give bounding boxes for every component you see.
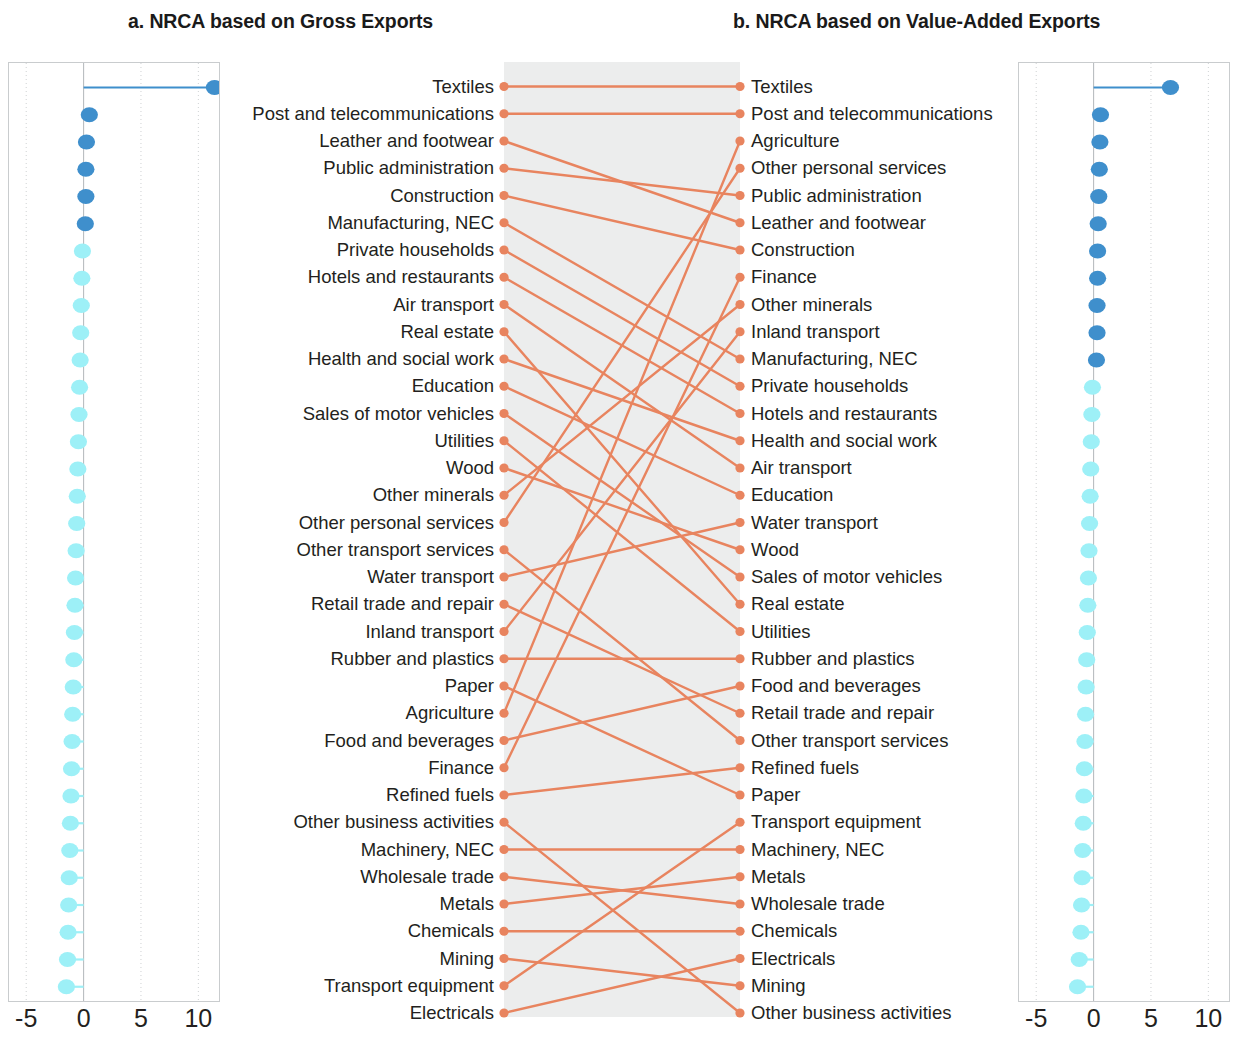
dotplot-svg-b (1019, 63, 1229, 1001)
dot-marker (65, 652, 82, 667)
slope-left-label: Chemicals (408, 922, 494, 941)
dot-marker (77, 162, 94, 177)
dot-marker (62, 788, 79, 803)
dot-marker (1074, 843, 1091, 858)
dot-marker (1082, 489, 1099, 504)
slope-link (504, 414, 740, 578)
x-axis-a-tick-neg5: -5 (15, 1004, 37, 1033)
slope-left-label: Wholesale trade (360, 868, 494, 887)
dot-marker (1082, 461, 1099, 476)
dot-marker (1081, 516, 1098, 531)
slope-left-label: Food and beverages (324, 731, 494, 750)
dot-marker (68, 516, 85, 531)
slope-right-label: Metals (751, 868, 806, 887)
dot-marker (1083, 407, 1100, 422)
x-axis-a-tick-0: 0 (77, 1004, 91, 1033)
dot-marker (78, 134, 95, 149)
slope-right-label: Education (751, 486, 833, 505)
slope-left-label: Refined fuels (386, 786, 494, 805)
dot-marker (1078, 652, 1095, 667)
x-axis-b-tick-0: 0 (1087, 1004, 1101, 1033)
dot-marker (1076, 734, 1093, 749)
dot-marker (65, 679, 82, 694)
slope-left-label: Other minerals (373, 486, 494, 505)
dot-marker (1090, 216, 1107, 231)
dot-marker (66, 598, 83, 613)
dot-marker (60, 897, 77, 912)
dot-marker (1071, 952, 1088, 967)
dotplot-svg-a (9, 63, 219, 1001)
slope-left-label: Air transport (393, 295, 494, 314)
dot-marker (73, 271, 90, 286)
dot-marker (66, 625, 83, 640)
dot-marker (1084, 380, 1101, 395)
slope-right-label: Finance (751, 268, 817, 287)
figure-root: a. NRCA based on Gross Exports b. NRCA b… (0, 0, 1240, 1052)
slope-right-label: Construction (751, 241, 855, 260)
x-axis-b-tick-neg5: -5 (1025, 1004, 1047, 1033)
slope-right-label: Food and beverages (751, 677, 921, 696)
slope-link (504, 332, 740, 632)
dot-marker (1092, 107, 1109, 122)
slope-right-label: Transport equipment (751, 813, 921, 832)
slope-left-label: Leather and footwear (319, 132, 494, 151)
dot-marker (59, 925, 76, 940)
slope-left-label: Textiles (432, 77, 494, 96)
dot-marker (71, 380, 88, 395)
slope-left-label: Inland transport (365, 622, 494, 641)
slope-left-label: Education (412, 377, 494, 396)
dot-marker (64, 707, 81, 722)
slope-right-label: Hotels and restaurants (751, 404, 937, 423)
dot-marker (1079, 625, 1096, 640)
slope-left-label: Hotels and restaurants (308, 268, 494, 287)
slope-link (504, 822, 740, 986)
slope-left-label: Construction (390, 186, 494, 205)
slope-right-label: Other personal services (751, 159, 946, 178)
slope-right-label: Wholesale trade (751, 895, 885, 914)
x-axis-a-tick-10: 10 (184, 1004, 212, 1033)
dot-marker (206, 80, 219, 95)
slope-left-label: Metals (440, 895, 495, 914)
dot-marker (81, 107, 98, 122)
dot-marker (1080, 543, 1097, 558)
slope-left-label: Real estate (400, 323, 494, 342)
dot-marker (1072, 925, 1089, 940)
slope-chart: TextilesPost and telecommunicationsLeath… (236, 62, 1008, 1022)
slope-right-label: Wood (751, 541, 799, 560)
dot-marker (1089, 271, 1106, 286)
dot-marker (1088, 352, 1105, 367)
slope-right-label: Air transport (751, 459, 852, 478)
dot-marker (1083, 434, 1100, 449)
slope-left-label: Rubber and plastics (330, 650, 494, 669)
slope-right-label: Refined fuels (751, 759, 859, 778)
slope-link (504, 550, 740, 741)
slope-link (504, 141, 740, 713)
slope-left-label: Transport equipment (324, 977, 494, 996)
dot-marker (77, 189, 94, 204)
slope-left-label: Other business activities (293, 813, 494, 832)
dot-marker (1069, 979, 1086, 994)
dotplot-panel-value-added-exports (1018, 62, 1230, 1002)
slope-right-label: Private households (751, 377, 908, 396)
slope-right-label: Other business activities (751, 1004, 952, 1023)
dot-marker (70, 407, 87, 422)
slope-link (504, 305, 740, 469)
dot-marker (1078, 679, 1095, 694)
slope-right-label: Chemicals (751, 922, 837, 941)
slope-link (504, 768, 740, 795)
dot-marker (68, 543, 85, 558)
slope-left-label: Public administration (323, 159, 494, 178)
slope-left-label: Finance (428, 759, 494, 778)
slope-right-label: Textiles (751, 77, 813, 96)
slope-right-label: Utilities (751, 622, 811, 641)
slope-link (504, 168, 740, 195)
slope-link (504, 223, 740, 359)
dot-marker (77, 216, 94, 231)
slope-left-label: Paper (445, 677, 494, 696)
slope-right-label: Leather and footwear (751, 214, 926, 233)
dot-marker (1091, 134, 1108, 149)
dot-marker (61, 870, 78, 885)
slope-link (504, 523, 740, 578)
slope-right-label: Other minerals (751, 295, 872, 314)
slope-right-label: Mining (751, 977, 806, 996)
